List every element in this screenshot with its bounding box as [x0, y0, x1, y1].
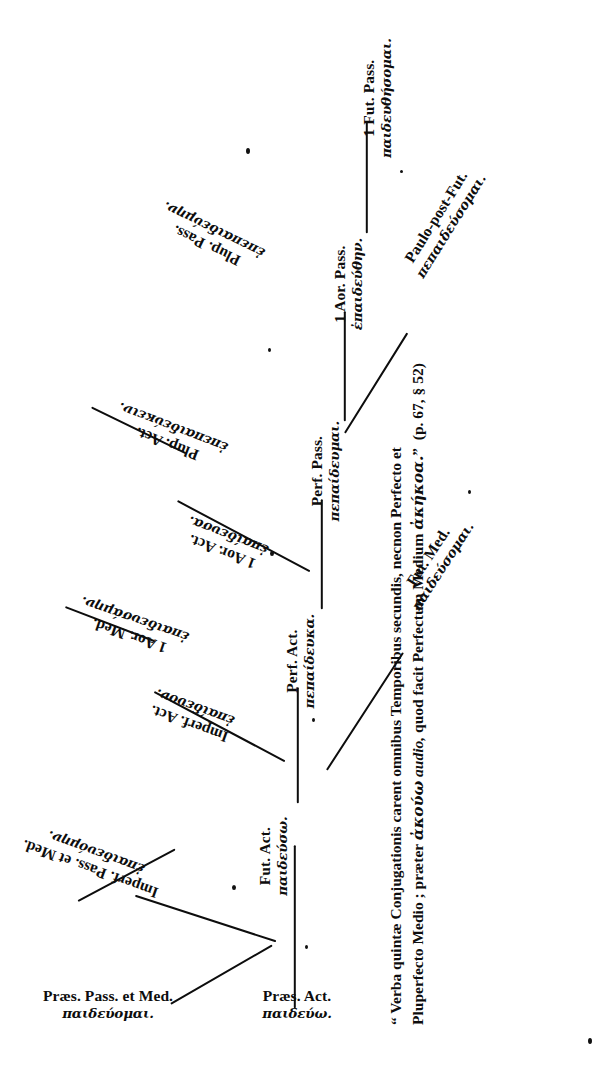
node-imperf-pass-et-med: Imperf. Pass. et Med. ἐπαιδευόμην.: [0, 807, 207, 916]
scan-speck: [270, 551, 274, 556]
scan-speck: [246, 148, 250, 154]
node-aor1-pass: 1 Aor. Pass. ἐπαιδεύθην.: [332, 194, 364, 374]
node-perf-pass: Perf. Pass. πεπαίδευμαι.: [309, 381, 341, 561]
node-imperf-act: Imperf. Act. ἐπαίδευον.: [111, 674, 272, 759]
caption-italic-audio: audio,: [409, 737, 426, 777]
node-greek-form: πεπαίδευμαι.: [327, 381, 342, 561]
caption-line2-part-c: quod facit Perfectum Medium: [409, 530, 426, 737]
node-greek-form: ἐπαιδεύθην.: [350, 194, 365, 374]
caption-page-reference: (p. 67, § 52): [409, 363, 426, 440]
node-greek-form: παιδεύομαι.: [8, 1006, 208, 1021]
node-praes-act: Præs. Act. παιδεύω.: [228, 988, 366, 1020]
node-greek-form: παιδεύσω.: [275, 776, 290, 936]
node-latin-label: Perf. Pass.: [309, 381, 326, 561]
node-latin-label: Præs. Act.: [228, 988, 366, 1005]
node-latin-label: Perf. Act.: [284, 576, 301, 746]
node-latin-label: Fut. Act.: [257, 776, 274, 936]
diagram-page: Præs. Pass. et Med. παιδεύομαι. Præs. Ac…: [0, 0, 612, 1072]
node-aor1-med: 1 Aor. Med. ἐπαιδευσάμην.: [32, 580, 232, 676]
scan-speck: [268, 348, 271, 352]
node-fut-act: Fut. Act. παιδεύσω.: [257, 776, 289, 936]
caption-line2-part-a: Pluperfecto Medio ; præter: [409, 840, 426, 1025]
edge-praes-act-to-fut-act: [294, 845, 296, 1008]
node-praes-pass-et-med: Præs. Pass. et Med. παιδεύομαι.: [8, 988, 208, 1020]
caption-line2-closequote: ”: [409, 448, 426, 456]
node-plup-pass: Plup. Pass. ἐπεπαιδεύμην.: [113, 180, 307, 297]
footnote-caption: “ Verba quintæ Conjugationis carent omni…: [385, 25, 429, 1025]
caption-greek-akouo: ἀκούω: [408, 781, 427, 840]
node-plup-act: Plup. Act. ἐπεπαιδεύκειν.: [71, 385, 269, 487]
caption-line2-space: [409, 777, 426, 781]
caption-line-1: “ Verba quintæ Conjugationis carent omni…: [385, 25, 407, 1025]
scan-speck: [468, 490, 471, 494]
node-latin-label: Plup. Pass.: [113, 194, 300, 297]
scan-speck: [305, 945, 308, 949]
node-greek-form: ἐπεπαιδεύμην.: [121, 180, 307, 281]
node-latin-label: 1 Fut. Pass.: [361, 3, 378, 193]
scan-speck: [232, 885, 236, 890]
caption-greek-akekoa: ἀκήκοα.: [408, 456, 427, 530]
scan-speck: [588, 1038, 592, 1044]
node-latin-label: Præs. Pass. et Med.: [8, 988, 208, 1005]
caption-line-2: Pluperfecto Medio ; præter ἀκούω audio, …: [407, 25, 429, 1025]
scan-speck: [400, 170, 403, 173]
node-latin-label: 1 Aor. Pass.: [332, 194, 349, 374]
node-greek-form: παιδεύω.: [228, 1006, 366, 1021]
scan-speck: [312, 718, 315, 722]
